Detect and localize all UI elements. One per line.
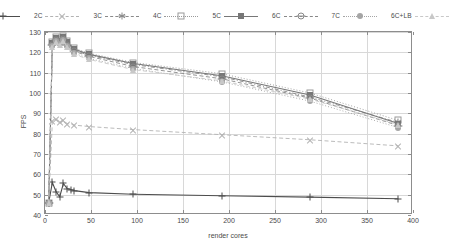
y-tick-label: 50 bbox=[33, 191, 41, 198]
legend-label: 6C bbox=[272, 13, 281, 20]
x-tick-label: 400 bbox=[407, 217, 419, 224]
y-tick-label: 70 bbox=[33, 151, 41, 158]
open-circle-marker bbox=[297, 13, 304, 20]
y-tick-label: 130 bbox=[29, 29, 41, 36]
x-tick-label: 200 bbox=[223, 217, 235, 224]
legend-item-7c[interactable]: 7C bbox=[332, 11, 378, 21]
legend-key bbox=[105, 11, 139, 21]
star-marker bbox=[118, 13, 125, 20]
legend-key bbox=[284, 11, 318, 21]
x-tick-label: 250 bbox=[269, 217, 281, 224]
y-tick-mark-right bbox=[408, 215, 411, 216]
open-square-marker bbox=[178, 13, 185, 20]
x-tick-label: 350 bbox=[361, 217, 373, 224]
triangle-marker bbox=[429, 13, 435, 19]
legend-item-6c-plus-lb[interactable]: 6C+LB bbox=[391, 11, 449, 21]
legend-label: 2C bbox=[34, 13, 43, 20]
filled-square-marker bbox=[238, 13, 244, 19]
legend-label: 7C bbox=[332, 13, 341, 20]
y-tick-mark bbox=[45, 215, 48, 216]
data-layer bbox=[45, 32, 411, 213]
legend-key bbox=[343, 11, 377, 21]
legend-item-1c[interactable]: 1C bbox=[0, 11, 20, 21]
x-tick-label: 300 bbox=[315, 217, 327, 224]
legend-label: 3C bbox=[93, 13, 102, 20]
legend-key bbox=[0, 11, 20, 21]
y-tick-label: 40 bbox=[33, 212, 41, 219]
y-tick-label: 110 bbox=[30, 69, 41, 76]
legend-item-4c[interactable]: 4C bbox=[153, 11, 199, 21]
legend-item-6c[interactable]: 6C bbox=[272, 11, 318, 21]
filled-circle-marker bbox=[357, 13, 363, 19]
legend-key bbox=[164, 11, 198, 21]
legend-key bbox=[415, 11, 449, 21]
y-axis-label: FPS bbox=[20, 106, 27, 136]
x-tick-label: 100 bbox=[131, 217, 143, 224]
y-tick-label: 120 bbox=[29, 49, 41, 56]
y-tick-label: 90 bbox=[33, 110, 41, 117]
legend-item-2c[interactable]: 2C bbox=[34, 11, 80, 21]
y-tick-label: 100 bbox=[29, 90, 41, 97]
legend-item-3c[interactable]: 3C bbox=[93, 11, 139, 21]
x-tick-label: 150 bbox=[177, 217, 189, 224]
chart-legend: 1C2C3C4C5C6C7C6C+LB bbox=[0, 8, 423, 24]
x-tick-mark bbox=[413, 210, 414, 213]
cross-marker bbox=[59, 13, 66, 20]
y-tick-label: 80 bbox=[33, 130, 41, 137]
x-tick-mark-top bbox=[413, 32, 414, 35]
legend-label: 5C bbox=[212, 13, 221, 20]
x-axis-label: render cores bbox=[44, 232, 412, 239]
legend-label: 6C+LB bbox=[391, 13, 412, 20]
legend-item-5c[interactable]: 5C bbox=[212, 11, 258, 21]
legend-key bbox=[45, 11, 79, 21]
legend-key bbox=[224, 11, 258, 21]
plot-area: 4050607080901001101201300501001502002503… bbox=[44, 31, 412, 214]
legend-label: 4C bbox=[153, 13, 162, 20]
series-line-6c-plus-lb bbox=[45, 32, 413, 215]
plus-marker bbox=[0, 13, 6, 20]
x-tick-label: 50 bbox=[87, 217, 95, 224]
x-tick-label: 0 bbox=[43, 217, 47, 224]
y-tick-label: 60 bbox=[33, 171, 41, 178]
